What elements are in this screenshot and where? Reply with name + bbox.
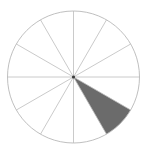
center-point [72, 75, 75, 78]
spoke-150deg [16, 77, 73, 110]
spoke-330deg [74, 44, 131, 77]
highlighted-sector[interactable] [74, 77, 131, 134]
sector-fill-layer [74, 77, 131, 134]
spoke-300deg [74, 20, 107, 77]
spoke-240deg [41, 20, 74, 77]
spoke-210deg [16, 44, 73, 77]
spoke-120deg [41, 77, 74, 134]
radial-sector-diagram: Radial sector wheel diagram [0, 0, 147, 149]
figure-canvas: Radial sector wheel diagram [0, 0, 147, 149]
